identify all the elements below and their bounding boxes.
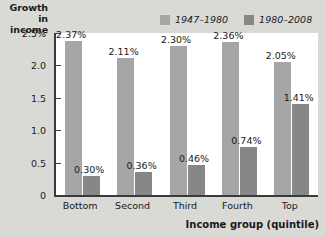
legend-item-series2: 1980–2008	[244, 14, 312, 25]
bar-value-label: 0.36%	[127, 160, 157, 171]
legend-item-series1: 1947–1980	[160, 14, 228, 25]
bar-value-label: 0.74%	[231, 135, 261, 146]
x-axis-tick-label: Top	[282, 200, 298, 211]
bar	[135, 172, 152, 195]
x-axis-tick-label: Second	[115, 200, 150, 211]
bar	[274, 62, 291, 195]
bar-value-label: 2.05%	[266, 50, 296, 61]
bar	[83, 176, 100, 195]
legend-swatch-series1	[160, 15, 170, 25]
bar-value-label: 2.36%	[213, 30, 243, 41]
y-axis-tick-label: 2.5%	[0, 28, 46, 39]
y-axis-tick-label: 1.5	[0, 92, 46, 103]
bar-value-label: 1.41%	[284, 92, 314, 103]
legend-label-series2: 1980–2008	[259, 14, 312, 25]
y-axis-tick-label: 2.0	[0, 60, 46, 71]
legend-swatch-series2	[244, 15, 254, 25]
chart-legend: 1947–1980 1980–2008	[160, 14, 312, 25]
y-axis-tick-label: 0	[0, 190, 46, 201]
bar	[188, 165, 205, 195]
y-axis-tick-label: 1.0	[0, 125, 46, 136]
legend-label-series1: 1947–1980	[175, 14, 228, 25]
x-axis-tick-label: Fourth	[222, 200, 253, 211]
x-axis-tick-label: Third	[173, 200, 197, 211]
bar-value-label: 2.30%	[161, 34, 191, 45]
y-axis-tick	[55, 65, 61, 66]
bar	[240, 147, 257, 195]
x-axis-title: Income group (quintile)	[186, 219, 319, 230]
y-axis-tick	[55, 195, 61, 196]
bar-value-label: 2.37%	[56, 29, 86, 40]
y-axis-title-line1: Growth in	[0, 2, 48, 24]
bar	[170, 46, 187, 195]
bar-value-label: 2.11%	[109, 46, 139, 57]
chart-container: Growth in income 1947–1980 1980–2008 00.…	[0, 0, 325, 237]
y-axis-tick	[55, 130, 61, 131]
y-axis-tick-label: 0.5	[0, 157, 46, 168]
y-axis-tick	[55, 163, 61, 164]
x-axis-tick-label: Bottom	[63, 200, 98, 211]
bar	[117, 58, 134, 195]
bar-value-label: 0.46%	[179, 153, 209, 164]
bar-value-label: 0.30%	[74, 164, 104, 175]
bar	[292, 104, 309, 195]
y-axis-tick	[55, 98, 61, 99]
bar	[222, 42, 239, 195]
